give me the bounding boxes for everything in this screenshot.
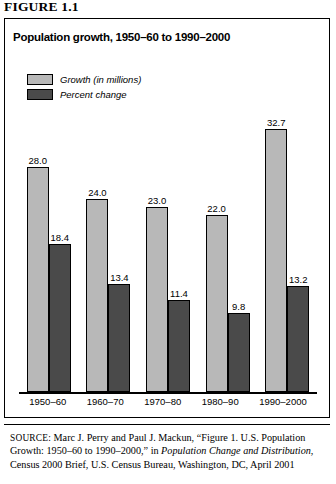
bar-column: 11.4 bbox=[168, 19, 190, 392]
bar-value-label: 23.0 bbox=[148, 195, 167, 206]
source-note: SOURCE: Marc J. Perry and Paul J. Mackun… bbox=[4, 424, 330, 471]
bar: 23.0 bbox=[146, 207, 168, 392]
bar-group: 22.09.8 bbox=[206, 19, 250, 392]
bar-column: 28.0 bbox=[27, 19, 49, 392]
bar-groups: 28.018.424.013.423.011.422.09.832.713.2 bbox=[19, 19, 317, 392]
bar: 28.0 bbox=[27, 167, 49, 392]
bar-column: 9.8 bbox=[228, 19, 250, 392]
bar-column: 23.0 bbox=[146, 19, 168, 392]
bar-value-label: 18.4 bbox=[51, 232, 70, 243]
bar-group: 28.018.4 bbox=[27, 19, 71, 392]
bar-group: 23.011.4 bbox=[146, 19, 190, 392]
bar: 22.0 bbox=[206, 215, 228, 392]
source-note-text: SOURCE: Marc J. Perry and Paul J. Mackun… bbox=[4, 431, 330, 471]
source-label: SOURCE: bbox=[10, 433, 51, 443]
bar-column: 18.4 bbox=[49, 19, 71, 392]
x-axis-tick-labels: 1950–601960–701970–801980–901990–2000 bbox=[19, 396, 317, 407]
x-axis-tick-label: 1960–70 bbox=[87, 396, 124, 407]
bar: 24.0 bbox=[86, 199, 108, 392]
bar-group: 32.713.2 bbox=[265, 19, 309, 392]
bar: 9.8 bbox=[228, 313, 250, 392]
chart-frame: Population growth, 1950–60 to 1990–2000 … bbox=[4, 18, 330, 418]
bar-value-label: 11.4 bbox=[170, 288, 188, 299]
bar-column: 22.0 bbox=[206, 19, 228, 392]
x-axis-tick-label: 1970–80 bbox=[144, 396, 181, 407]
bar-value-label: 24.0 bbox=[88, 187, 107, 198]
bar-value-label: 13.2 bbox=[289, 274, 308, 285]
plot-area: 28.018.424.013.423.011.422.09.832.713.2 … bbox=[5, 19, 329, 417]
x-axis-tick-label: 1950–60 bbox=[29, 396, 66, 407]
bar-column: 13.2 bbox=[287, 19, 309, 392]
x-axis-line bbox=[19, 392, 317, 394]
bar: 11.4 bbox=[168, 300, 190, 392]
bar: 13.2 bbox=[287, 286, 309, 392]
bar: 32.7 bbox=[265, 129, 287, 392]
bar-column: 32.7 bbox=[265, 19, 287, 392]
x-axis-tick-label: 1980–90 bbox=[202, 396, 239, 407]
bar-value-label: 22.0 bbox=[207, 203, 226, 214]
bar-value-label: 28.0 bbox=[29, 155, 48, 166]
bar-value-label: 9.8 bbox=[232, 301, 245, 312]
figure-label: FIGURE 1.1 bbox=[4, 0, 79, 15]
bar: 13.4 bbox=[108, 284, 130, 392]
bar: 18.4 bbox=[49, 244, 71, 392]
bar-value-label: 32.7 bbox=[267, 117, 286, 128]
bar-column: 13.4 bbox=[108, 19, 130, 392]
x-axis-tick-label: 1990–2000 bbox=[259, 396, 307, 407]
bar-group: 24.013.4 bbox=[86, 19, 130, 392]
bar-value-label: 13.4 bbox=[110, 272, 129, 283]
bar-column: 24.0 bbox=[86, 19, 108, 392]
source-text-italic: Population Change and Distribution bbox=[161, 445, 311, 456]
